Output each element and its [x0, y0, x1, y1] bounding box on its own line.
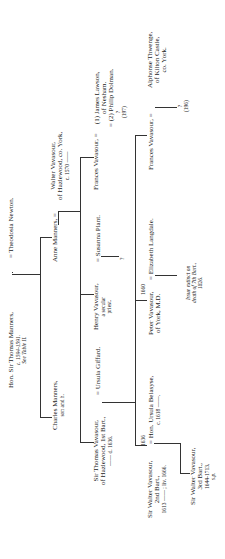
branch-line — [135, 300, 147, 301]
descent-line — [154, 443, 180, 444]
name: = Hon. Ursula Belasyse, — [148, 376, 155, 444]
sibling-bar — [40, 237, 41, 417]
name: Frances Vavasour, = — [148, 113, 155, 170]
person-peter-vavasour: Peter Vavasour, of York, M.D. — [148, 291, 162, 335]
person-frances-vavasour-1: Frances Vavasour, = — [93, 133, 100, 190]
county: co. York. — [161, 32, 168, 88]
note: son and h. — [59, 381, 65, 430]
name: = Susanna Plant. — [95, 215, 102, 262]
descent-line — [101, 256, 119, 257]
descent-line — [102, 402, 135, 403]
sibling-bar — [135, 135, 136, 445]
person-thomas-manners: Hon. Sir Thomas Manners, c. 1594-1591. S… — [8, 312, 27, 388]
descent-line — [155, 275, 177, 276]
name: Frances Vavasour, = — [93, 133, 100, 190]
profession: of York, M.D. — [155, 291, 162, 335]
issue-extinct-note: Issue extinct on death of 7th Bart., 182… — [185, 263, 203, 303]
name: = Elizabeth Langdale. — [148, 218, 155, 280]
name: = Ursula Giffard. — [95, 347, 102, 395]
name: Hon. Sir Thomas Manners, — [8, 312, 15, 388]
marriage-year: 1660 — [140, 284, 146, 295]
descent-line — [58, 211, 80, 212]
seat: of Hazlewood, co. York, — [57, 132, 64, 200]
person-walter-vavasour-2nd-bart: Sir Walter Vavasour, 2nd Bart., 1613 —— … — [147, 461, 167, 518]
descent-line — [180, 443, 181, 473]
issue-unknown: ? (197) — [115, 106, 127, 118]
descent-line — [12, 272, 13, 273]
name: Henry Vavasour, — [93, 283, 100, 330]
second-marriage: = (2) Philip Dolman. — [108, 69, 115, 127]
person-ursula-belasyse: = Hon. Ursula Belasyse, c. 1618 ——. — [148, 376, 161, 444]
dates: 1613 —— ; liv. 1666. — [161, 461, 167, 518]
descent-line — [12, 274, 40, 275]
note: s.p. — [210, 448, 216, 505]
marriage-year: 1636 — [140, 435, 146, 446]
name: Charles Manners, — [52, 381, 59, 430]
name: = Theodosia Newton. — [8, 198, 15, 258]
table-reference: (197) — [121, 106, 127, 118]
branch-line — [135, 135, 147, 136]
descent-line — [155, 107, 177, 108]
person-alphonse-thwenge: Alphonse Thwenge, of Kilton Castle, co. … — [147, 32, 168, 88]
person-thomas-vavasour: Sir Thomas Vavasour, of Hazlewood, 1st B… — [93, 417, 113, 485]
person-charles-manners: Charles Manners, son and h. — [52, 381, 65, 430]
issue-unknown: ? — [119, 258, 125, 260]
person-susanna-plant: = Susanna Plant. — [95, 215, 102, 262]
person-walter-vavasour-3rd-bart: Sir Walter Vavasour, 3rd Bart., 1644-171… — [190, 448, 216, 505]
table-reference: (196) — [183, 100, 189, 112]
dates: c. 1570 —— — [64, 132, 70, 200]
dates: c. 1618 ——. — [155, 376, 161, 444]
question-mark: ? — [119, 258, 125, 260]
note: priest. — [106, 283, 112, 330]
cross-reference: See Table II. — [21, 312, 27, 388]
dates: —— d. 1636. — [107, 417, 113, 485]
person-james-lawson: (1) James Lawson, of Nesham. = (2) Phili… — [94, 69, 115, 127]
title: 3rd Bart., — [197, 448, 204, 505]
person-walter-vavasour: Walter Vavasour, of Hazlewood, co. York,… — [50, 132, 70, 200]
title: of Hazlewood, 1st Bart., — [100, 417, 107, 485]
person-frances-vavasour-2: Frances Vavasour, = — [148, 113, 155, 170]
person-henry-vavasour: Henry Vavasour, a secular priest. — [93, 283, 112, 330]
person-elizabeth-langdale: = Elizabeth Langdale. — [148, 218, 155, 280]
person-ursula-giffard: = Ursula Giffard. — [95, 347, 102, 395]
sibling-bar — [80, 157, 81, 442]
note: 1826. — [197, 263, 203, 303]
title: 2nd Bart., — [154, 461, 161, 518]
year: 1660 — [140, 284, 146, 295]
marriage-line — [58, 211, 59, 225]
person-theodosia-newton: = Theodosia Newton. — [8, 198, 15, 258]
issue-unknown: ? (196) — [177, 100, 189, 112]
year: 1636 — [140, 435, 146, 446]
